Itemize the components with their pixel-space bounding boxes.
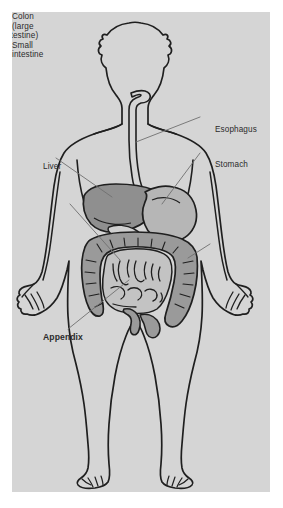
label-colon-line3: intestine) bbox=[12, 31, 262, 41]
label-small-intestine-line1: Small bbox=[12, 41, 270, 51]
label-appendix: Appendix bbox=[43, 333, 83, 343]
organ-small-intestine bbox=[103, 249, 172, 314]
label-colon: Colon (large intestine) bbox=[12, 12, 270, 41]
label-small-intestine-line2: intestine bbox=[12, 50, 270, 60]
label-stomach: Stomach bbox=[215, 160, 248, 170]
illustration-panel: Esophagus Stomach Colon (large intestine… bbox=[12, 12, 270, 492]
label-colon-line1: Colon bbox=[12, 12, 270, 22]
label-colon-line2: (large bbox=[12, 22, 270, 32]
label-esophagus: Esophagus bbox=[215, 125, 257, 135]
label-liver: Liver bbox=[43, 162, 61, 172]
anatomy-illustration bbox=[12, 12, 270, 492]
label-small-intestine: Small intestine bbox=[12, 41, 270, 60]
anatomy-figure: Esophagus Stomach Colon (large intestine… bbox=[0, 0, 283, 508]
